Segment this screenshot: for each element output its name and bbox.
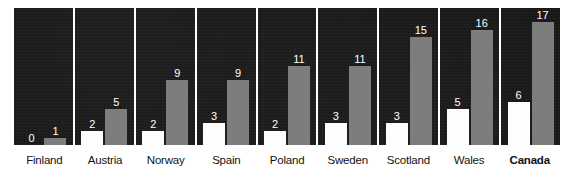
bar-series-1 [386,123,408,145]
bar-series-2 [288,66,310,145]
bar-series-2 [44,138,66,145]
bar-group-wales-series-1: 5 [447,8,469,145]
category-label-austria: Austria [75,149,136,171]
bar-series-2 [349,66,371,145]
bar-series-1 [81,131,103,145]
chart-panel-scotland: 3 15 [379,8,440,145]
bar-value-label: 3 [382,111,412,122]
bar-group-finland-series-1: 0 [20,8,42,145]
bar-group-scotland-series-1: 3 [386,8,408,145]
chart-panel-austria: 2 5 [75,8,136,145]
bar-value-label: 17 [528,10,558,21]
chart-panel-spain: 3 9 [197,8,258,145]
bar-value-label: 9 [223,68,253,79]
bar-value-label: 6 [504,90,534,101]
category-label-norway: Norway [135,149,196,171]
bar-value-label: 2 [260,119,290,130]
bar-value-label: 11 [284,54,314,65]
bar-value-label: 5 [101,97,131,108]
category-label-scotland: Scotland [378,149,439,171]
bar-series-1 [508,102,530,145]
bar-series-2 [410,37,432,145]
bar-group-norway-series-2: 9 [166,8,188,145]
bar-value-label: 2 [138,119,168,130]
category-label-canada: Canada [499,149,560,171]
bar-value-label: 11 [345,54,375,65]
bar-group-spain-series-1: 3 [203,8,225,145]
plot-area: 0 1 2 5 2 9 [14,8,560,145]
bar-group-canada-series-1: 6 [508,8,530,145]
bar-group-canada-series-2: 17 [532,8,554,145]
bar-value-label: 9 [162,68,192,79]
bar-group-scotland-series-2: 15 [410,8,432,145]
bar-value-label: 1 [40,126,70,137]
category-label-finland: Finland [14,149,75,171]
category-label-spain: Spain [196,149,257,171]
bar-group-poland-series-2: 11 [288,8,310,145]
bar-series-2 [105,109,127,145]
bar-group-sweden-series-2: 11 [349,8,371,145]
bar-group-finland-series-2: 1 [44,8,66,145]
bar-series-1 [142,131,164,145]
bar-chart: 0 1 2 5 2 9 [0,0,574,180]
chart-panel-wales: 5 16 [440,8,501,145]
chart-panel-poland: 2 11 [258,8,319,145]
bar-series-2 [471,30,493,145]
category-label-wales: Wales [439,149,500,171]
bar-group-sweden-series-1: 3 [325,8,347,145]
bar-series-2 [166,80,188,145]
bar-series-1 [203,123,225,145]
bar-value-label: 15 [406,25,436,36]
bar-group-poland-series-1: 2 [264,8,286,145]
chart-panel-sweden: 3 11 [318,8,379,145]
bar-group-spain-series-2: 9 [227,8,249,145]
category-label-poland: Poland [257,149,318,171]
bar-value-label: 2 [77,119,107,130]
bar-value-label: 3 [321,111,351,122]
category-axis-labels: Finland Austria Norway Spain Poland Swed… [14,149,560,171]
bar-group-austria-series-2: 5 [105,8,127,145]
bar-value-label: 16 [467,18,497,29]
bar-group-wales-series-2: 16 [471,8,493,145]
bar-series-2 [227,80,249,145]
chart-panel-finland: 0 1 [14,8,75,145]
bar-series-1 [264,131,286,145]
category-label-sweden: Sweden [317,149,378,171]
bar-series-2 [532,22,554,145]
chart-panel-norway: 2 9 [136,8,197,145]
bar-value-label: 3 [199,111,229,122]
bar-value-label: 5 [443,97,473,108]
bar-series-1 [447,109,469,145]
bar-group-norway-series-1: 2 [142,8,164,145]
chart-panel-canada: 6 17 [501,8,560,145]
bar-group-austria-series-1: 2 [81,8,103,145]
bar-series-1 [325,123,347,145]
